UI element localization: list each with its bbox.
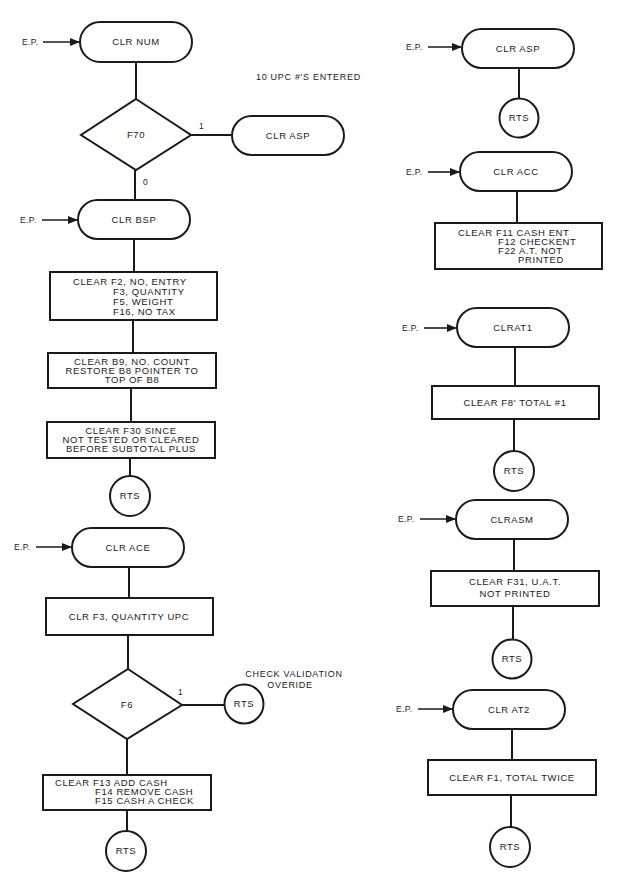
process-box-clear-f13: CLEAR F13 ADD CASH F14 REMOVE CASH F15 C… [43,775,211,810]
entry-point-label: E.P. [402,323,419,333]
terminal-clr-acc: CLR ACC [460,152,572,191]
entry-point-label: E.P. [406,167,423,177]
terminal-label: RTS [234,698,255,709]
terminal-rts-at1: RTS [494,451,534,491]
decision-f70: F70 [81,99,191,170]
process-line: CLEAR F1, TOTAL TWICE [449,772,575,783]
entry-point-label: E.P. [406,42,423,52]
terminal-label: CLR BSP [112,214,157,225]
entry-point-clrat1: E.P. [402,323,456,333]
entry-point-label: E.P. [22,37,39,47]
process-line: CLEAR F31, U.A.T. [469,576,561,587]
terminal-label: RTS [504,465,525,476]
terminal-clr-num: CLR NUM [80,22,192,62]
terminal-clr-asp: CLR ASP [462,29,574,68]
terminal-rts-asp: RTS [500,99,539,138]
branch-label-no: 0 [143,177,148,187]
process-line: CLEAR F8' TOTAL #1 [463,397,566,408]
entry-point-label: E.P. [20,215,37,225]
flowchart-canvas: E.P. CLR NUM 10 UPC #'S ENTERED F70 1 CL… [0,0,620,886]
terminal-rts-override: RTS [225,685,264,724]
entry-point-label: E.P. [398,514,415,524]
decision-label: F6 [121,699,133,710]
process-line: BEFORE SUBTOTAL PLUS [66,443,196,454]
terminal-label: RTS [116,845,137,856]
process-box-clear-f1: CLEAR F1, TOTAL TWICE [428,760,596,795]
entry-point-clr-acc: E.P. [406,167,459,177]
terminal-rts-asm: RTS [493,640,532,679]
decision-label: F70 [127,129,145,140]
process-box-clr-f3: CLR F3, QUANTITY UPC [46,598,213,635]
terminal-label: CLR ACC [493,166,538,177]
terminal-rts-ace: RTS [106,831,146,871]
annotation-override: OVERIDE [267,680,312,690]
process-line: PRINTED [518,254,564,265]
terminal-rts-at2: RTS [490,827,530,867]
process-box-clear-f8: CLEAR F8' TOTAL #1 [432,386,599,419]
entry-point-label: E.P. [396,704,413,714]
entry-point-clr-ace: E.P. [14,542,71,552]
terminal-label: CLR ASP [496,43,540,54]
terminal-label: CLR NUM [112,36,159,47]
process-box-clear-f11: CLEAR F11 CASH ENT F12 CHECKENT F22 A.T.… [435,223,602,269]
process-box-clear-f2: CLEAR F2, NO, ENTRY F3, QUANTITY F5, WEI… [50,272,217,320]
branch-label-yes: 1 [199,121,204,131]
process-line: NOT PRINTED [480,588,551,599]
entry-point-clr-asp: E.P. [406,42,461,52]
process-line: TOP OF B8 [105,374,160,385]
process-line: F16, NO TAX [113,306,176,317]
terminal-clrasm: CLRASM [456,500,568,539]
entry-point-label: E.P. [14,542,31,552]
process-line: CLR F3, QUANTITY UPC [69,611,190,622]
terminal-label: RTS [509,112,530,123]
terminal-label: CLR ASP [266,130,310,141]
terminal-label: CLRASM [490,514,533,525]
annotation-upc-entered: 10 UPC #'S ENTERED [256,72,361,82]
terminal-label: RTS [120,490,141,501]
annotation-check-validation: CHECK VALIDATION [245,669,342,679]
entry-point-clr-bsp: E.P. [20,215,77,225]
terminal-clr-ace: CLR ACE [72,528,184,567]
entry-point-clr-at2: E.P. [396,704,452,714]
terminal-label: CLRAT1 [493,322,532,333]
entry-point-clr-num: E.P. [22,37,79,47]
terminal-label: RTS [500,841,521,852]
process-line: F15 CASH A CHECK [95,795,194,806]
entry-point-clrasm: E.P. [398,514,455,524]
terminal-label: RTS [502,653,523,664]
terminal-clr-at2: CLR AT2 [453,690,565,729]
branch-label-yes: 1 [178,687,183,697]
process-box-clear-f30: CLEAR F30 SINCE NOT TESTED OR CLEARED BE… [47,422,215,458]
terminal-clr-asp-branch: CLR ASP [232,116,344,155]
decision-f6: F6 [73,669,182,739]
terminal-label: CLR AT2 [488,704,530,715]
process-box-clear-b9: CLEAR B9, NO. COUNT RESTORE B8 POINTER T… [48,353,216,388]
terminal-clrat1: CLRAT1 [457,308,569,347]
terminal-rts-bsp: RTS [110,476,150,516]
terminal-label: CLR ACE [106,542,151,553]
terminal-clr-bsp: CLR BSP [78,200,190,239]
process-box-clear-f31: CLEAR F31, U.A.T. NOT PRINTED [431,571,599,606]
